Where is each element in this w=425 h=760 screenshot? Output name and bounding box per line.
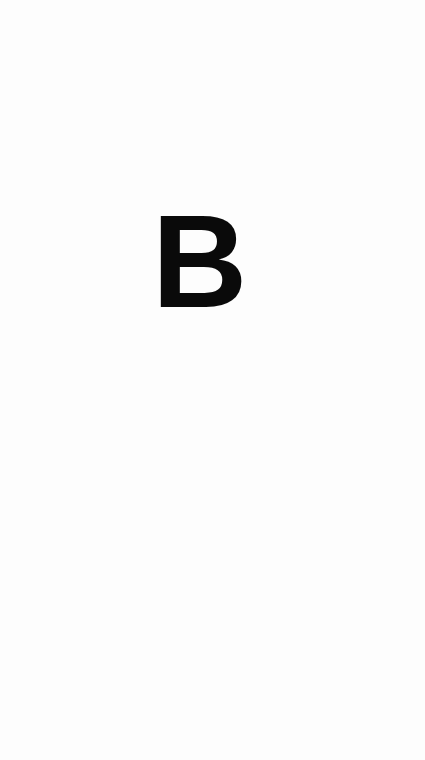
blank-page: B: [0, 0, 425, 760]
large-letter: B: [152, 196, 247, 328]
